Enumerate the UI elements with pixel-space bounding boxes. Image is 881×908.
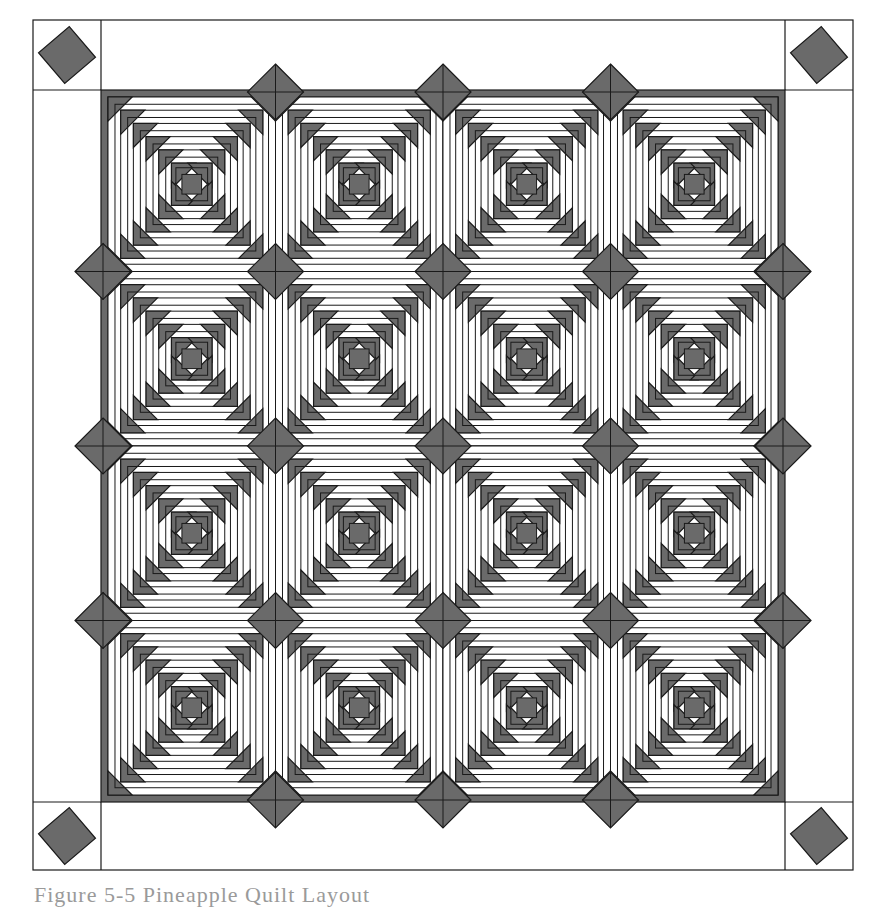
pineapple-block-r2-c2 (276, 272, 444, 447)
pineapple-block-r4-c2 (276, 621, 444, 796)
center-square (182, 523, 202, 543)
center-square (684, 523, 704, 543)
center-square (517, 174, 537, 194)
pineapple-block-r2-c4 (611, 272, 779, 447)
pineapple-block-r3-c1 (108, 446, 276, 621)
center-square (182, 174, 202, 194)
pineapple-block-r3-c2 (276, 446, 444, 621)
pineapple-block-r2-c1 (108, 272, 276, 447)
pineapple-block-r4-c3 (443, 621, 611, 796)
pineapple-block-r3-c4 (611, 446, 779, 621)
center-square (349, 349, 369, 369)
pineapple-block-r1-c4 (611, 97, 779, 272)
center-square (684, 698, 704, 718)
center-square (684, 174, 704, 194)
center-square (517, 523, 537, 543)
center-square (517, 349, 537, 369)
pineapple-block-r4-c4 (611, 621, 779, 796)
pineapple-block-r3-c3 (443, 446, 611, 621)
quilt-diagram (0, 0, 881, 880)
pineapple-block-r2-c3 (443, 272, 611, 447)
pineapple-block-r1-c1 (108, 97, 276, 272)
center-square (349, 698, 369, 718)
figure-caption: Figure 5-5 Pineapple Quilt Layout (34, 882, 370, 908)
pineapple-block-r1-c2 (276, 97, 444, 272)
center-square (182, 698, 202, 718)
pineapple-block-r4-c1 (108, 621, 276, 796)
center-square (517, 698, 537, 718)
center-square (349, 174, 369, 194)
pineapple-block-r1-c3 (443, 97, 611, 272)
center-square (349, 523, 369, 543)
center-square (182, 349, 202, 369)
center-square (684, 349, 704, 369)
